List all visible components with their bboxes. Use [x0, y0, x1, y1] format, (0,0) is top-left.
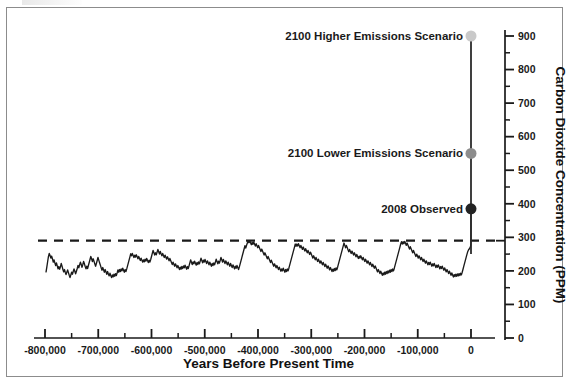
annotation-marker-higher-emissions [466, 31, 477, 42]
x-tick-label: -200,000 [344, 344, 386, 356]
x-tick-label: -300,000 [291, 344, 333, 356]
y-tick-label: 500 [518, 164, 536, 176]
y-tick-label: 800 [518, 63, 536, 75]
annotation-marker-observed-2008 [466, 203, 477, 214]
annotation-marker-lower-emissions [466, 148, 477, 159]
y-axis: 0100200300400500600700800900 [496, 30, 536, 344]
x-tick-label: -800,000 [24, 344, 66, 356]
y-tick-label: 100 [518, 298, 536, 310]
x-tick-label: -600,000 [131, 344, 173, 356]
annotation-label-lower-emissions: 2100 Lower Emissions Scenario [288, 147, 463, 159]
x-tick-label: -500,000 [184, 344, 226, 356]
annotation-label-higher-emissions: 2100 Higher Emissions Scenario [285, 30, 463, 42]
x-axis-title: Years Before Present Time [183, 356, 354, 371]
x-tick-label: -100,000 [397, 344, 439, 356]
series-line [46, 209, 471, 278]
y-tick-label: 600 [518, 130, 536, 142]
x-tick-label: 0 [468, 344, 474, 356]
annotation-label-observed-2008: 2008 Observed [381, 203, 463, 215]
y-tick-label: 200 [518, 265, 536, 277]
y-tick-label: 300 [518, 231, 536, 243]
co2-chart-figure: 0100200300400500600700800900 -800,000-70… [0, 0, 571, 384]
x-tick-label: -700,000 [78, 344, 120, 356]
y-tick-label: 0 [518, 332, 524, 344]
y-axis-title: Carbon Dioxide Concentration (PPM) [553, 66, 568, 303]
y-tick-label: 400 [518, 198, 536, 210]
x-axis: -800,000-700,000-600,000-500,000-400,000… [24, 329, 495, 356]
y-tick-label: 900 [518, 30, 536, 42]
y-tick-label: 700 [518, 97, 536, 109]
axis-titles: Years Before Present TimeCarbon Dioxide … [183, 66, 568, 371]
chart-canvas: 0100200300400500600700800900 -800,000-70… [0, 0, 571, 384]
x-tick-label: -400,000 [237, 344, 279, 356]
annotation-markers: 2100 Higher Emissions Scenario2100 Lower… [285, 30, 476, 215]
